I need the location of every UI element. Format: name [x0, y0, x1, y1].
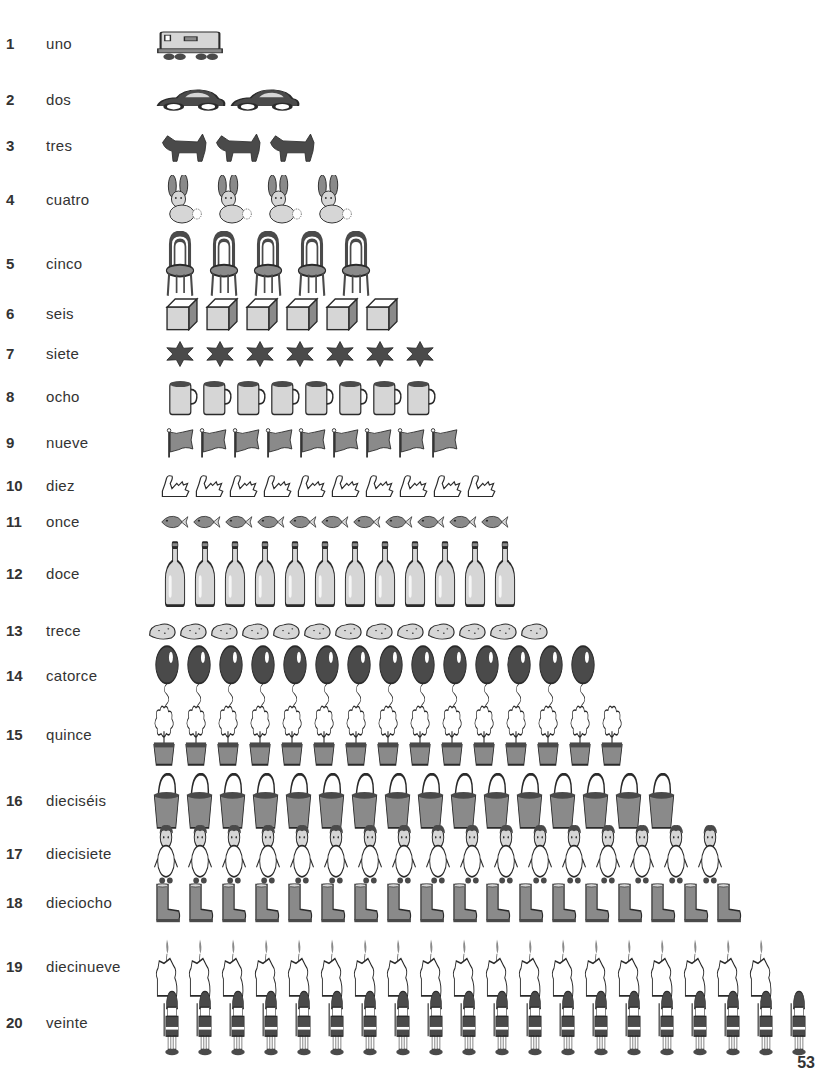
toy-soldier-icon: [620, 990, 648, 1056]
bottle-icon: [253, 541, 277, 607]
bucket-icon: [515, 773, 544, 829]
row-word: diez: [46, 477, 75, 494]
bucket-icon: [284, 773, 313, 829]
row-word: diecisiete: [46, 845, 112, 862]
potted-plant-icon: [182, 704, 210, 766]
child-icon: [558, 824, 590, 884]
fish-icon: [480, 511, 509, 533]
swan-icon: [194, 473, 224, 499]
balloon-icon: [441, 645, 469, 707]
potted-plant-icon: [214, 704, 242, 766]
row-number: 16: [6, 792, 34, 809]
star-icon: [325, 341, 355, 367]
swan-icon: [466, 473, 496, 499]
toy-soldier-icon: [719, 990, 747, 1056]
row-number: 5: [6, 255, 34, 272]
boot-icon: [219, 883, 247, 923]
bucket-icon: [152, 773, 181, 829]
star-icon: [365, 341, 395, 367]
candle-icon: [317, 937, 347, 997]
mug-icon: [338, 378, 368, 416]
row-word: catorce: [46, 667, 97, 684]
potato-icon: [241, 620, 270, 642]
mug-icon: [304, 378, 334, 416]
potato-icon: [365, 620, 394, 642]
row-illustrations: [160, 473, 496, 499]
row-word: tres: [46, 137, 72, 154]
bottle-icon: [343, 541, 367, 607]
potted-plant-icon: [534, 704, 562, 766]
child-icon: [252, 824, 284, 884]
bottle-icon: [193, 541, 217, 607]
fish-icon: [384, 511, 413, 533]
page-number: 53: [797, 1054, 815, 1072]
toy-soldier-icon: [257, 990, 285, 1056]
potted-plant-icon: [278, 704, 306, 766]
row-word: cuatro: [46, 191, 90, 208]
potted-plant-icon: [566, 704, 594, 766]
candle-icon: [647, 937, 677, 997]
balloon-icon: [409, 645, 437, 707]
toy-soldier-icon: [752, 990, 780, 1056]
flag-icon: [363, 428, 392, 458]
star-icon: [245, 341, 275, 367]
fish-icon: [192, 511, 221, 533]
scottie-dog-icon: [268, 129, 318, 163]
toy-soldier-icon: [290, 990, 318, 1056]
bucket-icon: [251, 773, 280, 829]
bucket-icon: [614, 773, 643, 829]
flag-icon: [165, 428, 194, 458]
boot-icon: [681, 883, 709, 923]
row-illustrations: [155, 24, 225, 64]
bucket-icon: [218, 773, 247, 829]
balloon-icon: [569, 645, 597, 707]
row-illustrations: [158, 990, 813, 1056]
potato-icon: [334, 620, 363, 642]
potted-plant-icon: [406, 704, 434, 766]
toy-soldier-icon: [554, 990, 582, 1056]
candle-icon: [416, 937, 446, 997]
flag-icon: [231, 428, 260, 458]
child-icon: [150, 824, 182, 884]
row-illustrations: [152, 937, 776, 997]
cube-icon: [285, 297, 319, 331]
boot-icon: [153, 883, 181, 923]
mug-icon: [406, 378, 436, 416]
candle-icon: [251, 937, 281, 997]
bottle-icon: [493, 541, 517, 607]
child-icon: [524, 824, 556, 884]
bucket-icon: [548, 773, 577, 829]
row-word: uno: [46, 35, 72, 52]
row-number: 7: [6, 345, 34, 362]
potted-plant-icon: [310, 704, 338, 766]
child-icon: [388, 824, 420, 884]
row-number: 15: [6, 726, 34, 743]
swan-icon: [262, 473, 292, 499]
star-icon: [405, 341, 435, 367]
swan-icon: [330, 473, 360, 499]
candle-icon: [746, 937, 776, 997]
toy-soldier-icon: [455, 990, 483, 1056]
boot-icon: [318, 883, 346, 923]
potato-icon: [303, 620, 332, 642]
candle-icon: [614, 937, 644, 997]
flag-icon: [198, 428, 227, 458]
balloon-icon: [281, 645, 309, 707]
balloon-icon: [217, 645, 245, 707]
row-number: 10: [6, 477, 34, 494]
balloon-icon: [505, 645, 533, 707]
row-number: 11: [6, 513, 34, 530]
child-icon: [422, 824, 454, 884]
row-number: 18: [6, 894, 34, 911]
scottie-dog-icon: [160, 129, 210, 163]
boot-icon: [417, 883, 445, 923]
cube-icon: [165, 297, 199, 331]
balloon-icon: [249, 645, 277, 707]
row-number: 12: [6, 565, 34, 582]
candle-icon: [548, 937, 578, 997]
star-icon: [205, 341, 235, 367]
row-illustrations: [168, 378, 436, 416]
candle-icon: [185, 937, 215, 997]
child-icon: [660, 824, 692, 884]
bucket-icon: [647, 773, 676, 829]
